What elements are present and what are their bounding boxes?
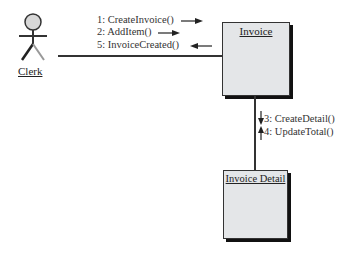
stick-figure-icon bbox=[13, 10, 53, 62]
message-create-detail: 3: CreateDetail() bbox=[264, 113, 335, 125]
message-add-item: 2: AddItem() bbox=[97, 26, 152, 38]
arrow-right-icon bbox=[158, 30, 180, 36]
invoice-detail-object: Invoice Detail bbox=[223, 170, 288, 239]
invoice-detail-link bbox=[254, 96, 256, 170]
message-invoice-created: 5: InvoiceCreated() bbox=[97, 39, 179, 51]
clerk-invoice-link bbox=[58, 55, 222, 57]
invoice-object: Invoice bbox=[222, 22, 290, 96]
message-update-total: 4: UpdateTotal() bbox=[264, 126, 334, 138]
invoice-detail-object-title: Invoice Detail bbox=[224, 173, 287, 184]
actor-label: Clerk bbox=[18, 65, 42, 77]
arrow-left-icon bbox=[190, 43, 212, 49]
arrow-right-icon bbox=[181, 18, 203, 24]
message-create-invoice: 1: CreateInvoice() bbox=[97, 14, 174, 26]
invoice-object-title: Invoice bbox=[223, 25, 289, 37]
